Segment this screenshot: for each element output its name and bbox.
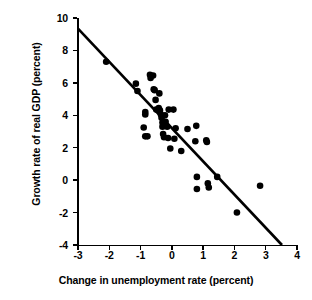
x-axis-tick-label: 1	[193, 250, 213, 260]
y-axis-tick	[73, 17, 77, 19]
y-axis-tick	[73, 115, 77, 117]
x-axis-tick-label: -1	[131, 250, 151, 260]
y-axis-tick-label: -2	[42, 208, 68, 218]
x-axis-tick-label: 4	[287, 250, 307, 260]
x-axis-tick-label: -3	[68, 250, 88, 260]
data-point	[214, 174, 221, 181]
x-axis-title: Change in unemployment rate (percent)	[0, 274, 312, 286]
y-axis-tick-label: 0	[42, 175, 68, 185]
data-point	[184, 126, 191, 133]
data-point	[178, 148, 185, 155]
data-point	[204, 139, 211, 146]
y-axis-tick-label: -4	[42, 240, 68, 250]
x-axis-tick-label: 0	[162, 250, 182, 260]
data-point	[164, 123, 171, 130]
data-point	[162, 112, 169, 119]
y-axis-tick	[73, 212, 77, 214]
data-point	[144, 133, 151, 140]
data-point	[194, 174, 201, 181]
data-point	[193, 123, 200, 130]
data-point	[171, 135, 178, 142]
scatter-svg	[78, 18, 297, 245]
y-axis-tick	[73, 179, 77, 181]
data-point	[167, 145, 174, 152]
data-point	[133, 80, 140, 87]
y-axis-tick	[73, 147, 77, 149]
data-point	[257, 183, 264, 190]
data-point	[140, 124, 147, 131]
data-point	[234, 209, 241, 216]
x-axis-tick-label: -2	[99, 250, 119, 260]
data-point	[172, 125, 179, 132]
data-point	[152, 97, 159, 104]
y-axis-tick-label: 10	[42, 13, 68, 23]
data-point	[194, 186, 201, 193]
data-point	[156, 90, 163, 97]
plot-area	[78, 18, 297, 245]
data-point	[170, 106, 177, 113]
y-axis-tick-label: 6	[42, 78, 68, 88]
okun-law-scatter-chart: 1086420-2-4 -3-2-101234 Growth rate of r…	[0, 0, 312, 300]
y-axis-tick	[73, 50, 77, 52]
y-axis-title: Growth rate of real GDP (percent)	[30, 14, 42, 234]
y-axis-tick	[73, 82, 77, 84]
data-point	[192, 138, 199, 145]
data-point	[165, 135, 172, 142]
data-point	[134, 88, 141, 95]
data-point	[142, 111, 149, 118]
y-axis-tick-label: 4	[42, 110, 68, 120]
y-axis-tick-label: 2	[42, 143, 68, 153]
x-axis-tick-label: 3	[256, 250, 276, 260]
y-axis-tick-label: 8	[42, 45, 68, 55]
data-point	[205, 184, 212, 191]
x-axis-tick-label: 2	[224, 250, 244, 260]
data-point	[103, 58, 110, 65]
data-point	[150, 72, 157, 79]
